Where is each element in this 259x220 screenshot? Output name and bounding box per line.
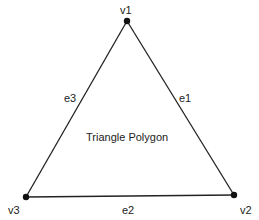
vertex-v2	[231, 192, 237, 198]
edge-e3	[26, 21, 127, 197]
vertex-label-v1: v1	[120, 4, 132, 16]
vertex-v1	[124, 18, 130, 24]
edge-e2	[26, 195, 234, 197]
vertex-label-v3: v3	[8, 204, 20, 216]
edge-label-e3: e3	[64, 92, 76, 104]
vertex-label-v2: v2	[240, 204, 252, 216]
edge-label-e2: e2	[122, 204, 134, 216]
triangle-diagram: v1 v2 v3 e1 e2 e3 Triangle Polygon	[0, 0, 259, 220]
edge-label-e1: e1	[179, 92, 191, 104]
edge-e1	[127, 21, 234, 195]
diagram-title: Triangle Polygon	[86, 131, 168, 143]
vertex-v3	[23, 194, 29, 200]
